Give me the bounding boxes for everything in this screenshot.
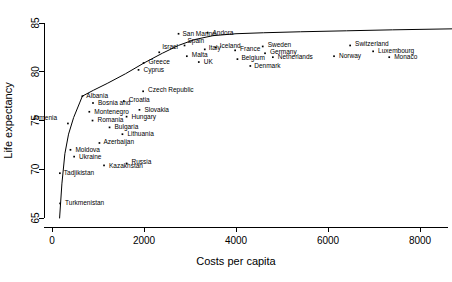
data-point xyxy=(99,142,101,144)
data-point xyxy=(198,61,200,63)
point-label: Iceland xyxy=(220,42,241,49)
point-label: Armenia xyxy=(33,114,58,121)
point-label: Czech Republic xyxy=(148,86,194,94)
data-point xyxy=(204,49,206,51)
point-labels-group: TurkmenistanTadjikistanKazakhstanRussiaU… xyxy=(33,29,418,207)
y-axis-title: Life expectancy xyxy=(2,82,14,159)
point-label: San Marino xyxy=(183,30,217,37)
y-tick-label: 80 xyxy=(30,66,41,78)
data-point xyxy=(249,65,251,67)
point-label: Azerbaijan xyxy=(103,138,134,146)
point-label: Croatia xyxy=(129,96,150,103)
data-point xyxy=(349,45,351,47)
data-point xyxy=(126,116,128,118)
data-point xyxy=(237,58,239,60)
point-label: Tadjikistan xyxy=(64,169,95,177)
data-point xyxy=(103,165,105,167)
data-point xyxy=(109,127,111,129)
data-point xyxy=(143,62,145,64)
point-label: Albania xyxy=(86,92,108,99)
point-label: France xyxy=(240,45,261,52)
point-label: Israel xyxy=(162,43,178,50)
x-tick-label: 4000 xyxy=(225,235,248,246)
data-point xyxy=(333,55,335,57)
data-point xyxy=(138,69,140,71)
x-tick-label: 8000 xyxy=(409,235,432,246)
data-point xyxy=(73,156,75,158)
point-label: Romania xyxy=(97,116,123,123)
point-label: Cyprus xyxy=(143,66,164,74)
point-label: Turkmenistan xyxy=(65,199,105,206)
point-label: Bulgaria xyxy=(115,123,139,131)
data-point xyxy=(122,133,124,135)
x-tick-label: 0 xyxy=(49,235,55,246)
data-point xyxy=(184,45,186,47)
data-point xyxy=(158,51,160,53)
x-tick-label: 2000 xyxy=(133,235,156,246)
data-point xyxy=(70,149,72,151)
point-label: UK xyxy=(204,58,214,65)
y-tick-label: 70 xyxy=(30,163,41,175)
data-point xyxy=(262,46,264,48)
point-label: Andora xyxy=(212,29,233,36)
point-label: Slovakia xyxy=(144,106,169,113)
point-label: Russia xyxy=(132,158,152,165)
point-label: Greece xyxy=(149,58,171,65)
plot-area: 657075808502000400060008000 Turkmenistan… xyxy=(0,0,452,282)
data-point xyxy=(82,95,84,97)
point-label: Belgium xyxy=(241,54,264,62)
data-point xyxy=(186,55,188,57)
point-label: Sweden xyxy=(268,41,292,48)
data-point xyxy=(67,123,69,125)
point-label: Monaco xyxy=(394,53,418,60)
x-tick-label: 6000 xyxy=(317,235,340,246)
data-point xyxy=(388,56,390,58)
tick-label-group: 657075808502000400060008000 xyxy=(30,17,432,246)
point-label: Montenegro xyxy=(94,108,129,116)
point-label: Hungary xyxy=(132,113,157,121)
data-point xyxy=(139,109,141,111)
point-label: Germany xyxy=(270,48,297,56)
data-point xyxy=(372,50,374,52)
y-tick-label: 85 xyxy=(30,17,41,29)
y-tick-label: 65 xyxy=(30,212,41,224)
data-point xyxy=(59,203,61,205)
point-label: Lithuania xyxy=(127,130,154,137)
data-point xyxy=(178,33,180,35)
point-label: Norway xyxy=(339,52,362,60)
data-point xyxy=(92,102,94,104)
data-point xyxy=(88,111,90,113)
point-label: Bosnia and xyxy=(98,99,131,106)
point-label: Denmark xyxy=(254,62,281,69)
point-label: Moldova xyxy=(75,146,100,153)
data-point xyxy=(59,172,61,174)
point-label: Spain xyxy=(187,37,204,45)
x-axis-title: Costs per capita xyxy=(196,255,276,267)
data-point xyxy=(272,56,274,58)
data-point xyxy=(234,50,236,52)
data-point xyxy=(92,120,94,122)
point-label: Malta xyxy=(192,51,208,58)
scatter-chart-figure: 657075808502000400060008000 Turkmenistan… xyxy=(0,0,452,282)
data-point xyxy=(142,90,144,92)
point-label: Ukraine xyxy=(79,153,102,160)
